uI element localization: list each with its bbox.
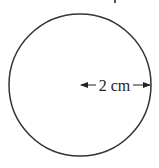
radius-label: 2 cm bbox=[99, 77, 131, 94]
circle-diagram: 2 cm bbox=[0, 0, 159, 168]
cropped-text-fragment bbox=[114, 0, 116, 3]
